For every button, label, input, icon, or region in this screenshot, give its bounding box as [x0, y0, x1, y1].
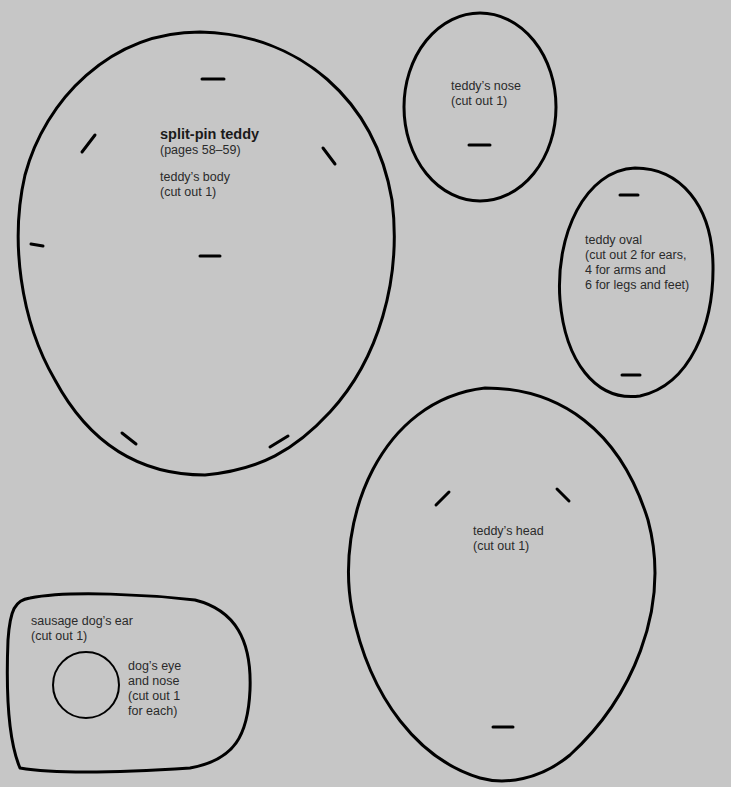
body-slit-upper-right [323, 148, 335, 164]
head-slit-right [557, 489, 569, 501]
body-slit-lower-right [270, 436, 288, 447]
eye-name-2: and nose [128, 674, 181, 689]
body-label: split-pin teddy (pages 58–59) teddy’s bo… [160, 125, 259, 200]
nose-label: teddy’s nose (cut out 1) [451, 79, 521, 109]
head-name: teddy’s head [473, 524, 544, 539]
eye-instruction-2: for each) [128, 704, 181, 719]
nose-instruction: (cut out 1) [451, 94, 521, 109]
head-outline [348, 388, 654, 781]
body-slit-upper-left [82, 135, 95, 152]
ear-instruction: (cut out 1) [31, 629, 133, 644]
oval-name: teddy oval [585, 233, 689, 248]
head-label: teddy’s head (cut out 1) [473, 524, 544, 554]
eye-instruction-1: (cut out 1 [128, 689, 181, 704]
head-instruction: (cut out 1) [473, 539, 544, 554]
eye-name-1: dog’s eye [128, 659, 181, 674]
ear-label: sausage dog’s ear (cut out 1) [31, 614, 133, 644]
body-outline [18, 32, 394, 475]
oval-instruction-1: (cut out 2 for ears, [585, 248, 689, 263]
body-instruction: (cut out 1) [160, 185, 259, 200]
head-slit-left [436, 492, 449, 505]
oval-label: teddy oval (cut out 2 for ears, 4 for ar… [585, 233, 689, 293]
template-title: split-pin teddy [160, 125, 259, 143]
pages-reference: (pages 58–59) [160, 143, 259, 158]
body-name: teddy’s body [160, 170, 259, 185]
eye-label: dog’s eye and nose (cut out 1 for each) [128, 659, 181, 719]
template-shapes [0, 0, 731, 787]
eye-outline [53, 652, 119, 718]
ear-name: sausage dog’s ear [31, 614, 133, 629]
oval-instruction-2: 4 for arms and [585, 263, 689, 278]
oval-instruction-3: 6 for legs and feet) [585, 278, 689, 293]
nose-name: teddy’s nose [451, 79, 521, 94]
body-slit-left [31, 244, 43, 246]
body-slit-lower-left [122, 433, 136, 444]
template-page: split-pin teddy (pages 58–59) teddy’s bo… [0, 0, 731, 787]
